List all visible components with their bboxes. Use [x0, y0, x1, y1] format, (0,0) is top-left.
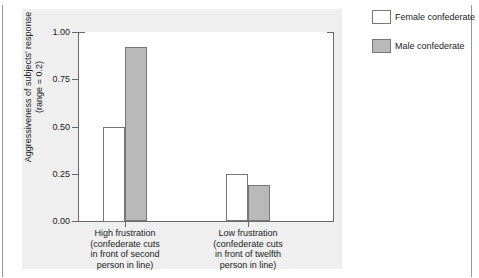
- legend-item-1[interactable]: Female confederate: [372, 10, 475, 24]
- x-axis-group-label-line: Low frustration: [188, 228, 308, 239]
- x-axis-group-label-line: (confederate cuts: [65, 239, 185, 250]
- x-axis-group-label-line: in front of twelfth: [188, 249, 308, 260]
- x-axis-group-label: High frustration(confederate cutsin fron…: [65, 228, 185, 270]
- y-axis-tick-label: 0.75: [26, 75, 70, 84]
- white-square-swatch: [372, 10, 391, 24]
- figure-container: Aggressiveness of subjects' response (ra…: [0, 0, 479, 278]
- grey-square-swatch: [372, 39, 391, 53]
- y-axis-tick: [72, 127, 79, 128]
- x-axis-group-label-line: in front of second: [65, 249, 185, 260]
- page-rule-left: [2, 5, 3, 277]
- axis-cap-top-right: [327, 32, 334, 33]
- clipped-top-caption: [0, 0, 479, 5]
- axis-line-right: [333, 32, 334, 222]
- x-axis-tick: [248, 222, 249, 227]
- bar-male-group-2: [248, 185, 270, 221]
- bar-female-group-1: [103, 127, 125, 222]
- bar-male-group-1: [125, 47, 147, 221]
- y-axis-tick-label: 0.25: [26, 170, 70, 179]
- legend-item-label: Female confederate: [395, 12, 475, 22]
- y-axis-tick: [72, 174, 79, 175]
- chart-legend: Female confederateMale confederate: [372, 10, 475, 68]
- axis-cap-top-left: [78, 32, 85, 33]
- x-axis-group-label-line: person in line): [65, 260, 185, 271]
- x-axis-tick: [125, 222, 126, 227]
- x-axis-group-label-line: (confederate cuts: [188, 239, 308, 250]
- y-axis-tick: [72, 79, 79, 80]
- legend-item-2[interactable]: Male confederate: [372, 39, 475, 53]
- x-axis-group-label-line: High frustration: [65, 228, 185, 239]
- x-axis-group-label-line: person in line): [188, 260, 308, 271]
- legend-item-label: Male confederate: [395, 41, 465, 51]
- y-axis-tick-label: 0.50: [26, 123, 70, 132]
- y-axis-tick: [72, 32, 79, 33]
- x-axis-group-label: Low frustration(confederate cutsin front…: [188, 228, 308, 270]
- y-axis-tick: [72, 221, 79, 222]
- y-axis-tick-label: 1.00: [26, 28, 70, 37]
- bar-female-group-2: [226, 174, 248, 221]
- y-axis-tick-label: 0.00: [26, 217, 70, 226]
